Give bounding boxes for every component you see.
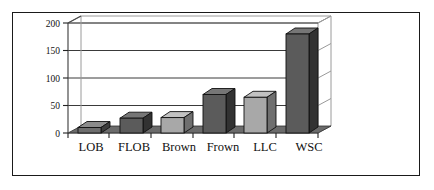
bar-llc-side <box>267 91 276 133</box>
y-tick-label-50: 50 <box>51 101 61 111</box>
y-tick-label-100: 100 <box>46 74 61 84</box>
x-label-flob: FLOB <box>118 140 150 154</box>
x-label-wsc: WSC <box>295 140 322 154</box>
bar-flob[interactable] <box>120 112 152 133</box>
x-label-brown: Brown <box>162 140 197 154</box>
bar-frown-front <box>203 95 226 134</box>
bar-frown-side <box>226 89 235 134</box>
y-tick-labels: 200 150 100 50 0 <box>46 19 61 139</box>
bar-wsc-front <box>286 34 309 133</box>
y-tick-label-0: 0 <box>55 129 60 139</box>
bar-wsc-side <box>309 28 318 133</box>
x-axis-labels: LOB FLOB Brown Frown LLC WSC <box>79 140 323 154</box>
chart-canvas: 200 150 100 50 0 <box>13 13 421 177</box>
y-tick-label-200: 200 <box>46 19 61 29</box>
x-label-llc: LLC <box>253 140 277 154</box>
panel-top-face <box>68 16 331 23</box>
x-label-frown: Frown <box>207 140 240 154</box>
bar-llc-front <box>244 97 267 133</box>
bar-flob-front <box>120 118 143 133</box>
bar-brown-front <box>161 118 184 133</box>
figure-frame: 200 150 100 50 0 <box>12 12 420 176</box>
bar-frown[interactable] <box>203 89 235 134</box>
bar-llc[interactable] <box>244 91 276 133</box>
y-tick-label-150: 150 <box>46 46 61 56</box>
x-label-lob: LOB <box>79 140 104 154</box>
bar-wsc[interactable] <box>286 28 318 133</box>
x-axis <box>68 133 318 138</box>
y-tick-marks <box>63 23 68 133</box>
bar-chart: 200 150 100 50 0 <box>13 13 421 177</box>
bar-brown[interactable] <box>161 112 193 133</box>
bar-lob-front <box>78 128 101 134</box>
